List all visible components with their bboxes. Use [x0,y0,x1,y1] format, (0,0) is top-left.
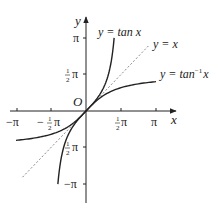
svg-text:1: 1 [48,115,52,123]
arctan-curve-label: y = tan−1x [159,67,209,81]
origin-label: O [73,94,83,109]
svg-text:1: 1 [116,115,120,123]
svg-text:π: π [72,140,78,154]
x-tick-label-neg-pi: −π [6,115,19,129]
y-tick-label-half-pi: 1 2 π [65,67,78,84]
svg-text:1: 1 [66,140,70,148]
y-tick-label-neg-pi: −π [64,177,77,191]
svg-text:2: 2 [66,149,70,157]
tan-curve-label: y = tan x [97,25,142,39]
y-tick-label-neg-half-pi: 1 2 π [65,140,78,157]
svg-text:−: − [37,115,44,129]
svg-text:π: π [54,115,60,129]
svg-text:π: π [121,115,127,129]
y-tick-label-pi: π [73,31,79,45]
x-tick-label-pi: π [151,115,157,129]
x-tick-label-half-pi: 1 2 π [115,115,127,132]
x-axis-label: x [170,112,177,127]
identity-line-label: y = x [152,37,178,51]
x-tick-label-neg-half-pi: − 1 2 π [37,115,60,132]
svg-text:2: 2 [48,124,52,132]
svg-text:π: π [72,67,78,81]
y-axis-label: y [73,13,81,28]
function-graph: y x O −π − 1 2 π 1 2 π π π 1 2 π 1 2 π −… [0,0,218,209]
svg-text:2: 2 [116,124,120,132]
svg-text:1: 1 [66,67,70,75]
svg-text:2: 2 [66,76,70,84]
